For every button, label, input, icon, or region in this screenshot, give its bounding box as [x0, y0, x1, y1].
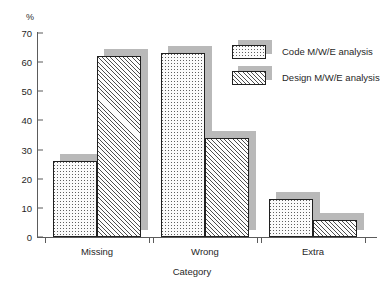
x-category-label-extra: Extra — [302, 246, 324, 257]
bar-wrong-code[interactable] — [161, 53, 205, 237]
x-tick-mark — [149, 238, 150, 243]
bar-extra-code[interactable] — [269, 199, 313, 237]
legend-item-code: Code M/W/E analysis — [232, 38, 380, 64]
x-tick-mark — [261, 238, 262, 243]
x-axis-title: Category — [0, 266, 384, 277]
x-category-label-wrong: Wrong — [191, 246, 219, 257]
legend-swatch-design-icon — [232, 71, 266, 85]
bar-extra-design[interactable] — [313, 220, 357, 237]
x-tick-mark — [257, 238, 258, 243]
legend-label-code: Code M/W/E analysis — [282, 46, 373, 57]
x-tick-mark — [45, 238, 46, 243]
bar-chart: % 010203040506070 MissingWrongExtra Cate… — [0, 0, 384, 288]
x-tick-mark — [153, 238, 154, 243]
legend-label-design: Design M/W/E analysis — [282, 72, 380, 83]
bar-missing-code[interactable] — [53, 161, 97, 237]
bar-missing-design[interactable] — [97, 56, 141, 237]
x-tick-mark — [365, 238, 366, 243]
legend-swatch-code-icon — [232, 45, 266, 59]
legend: Code M/W/E analysis Design M/W/E analysi… — [232, 38, 380, 90]
bar-wrong-design[interactable] — [205, 138, 249, 237]
legend-item-design: Design M/W/E analysis — [232, 64, 380, 90]
x-category-label-missing: Missing — [81, 246, 113, 257]
